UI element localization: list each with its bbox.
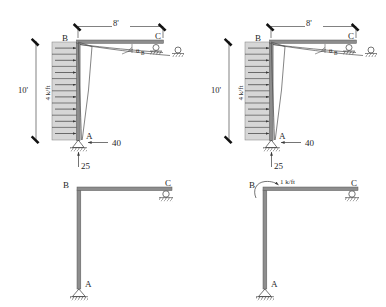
rotation-angle-subscript: B (141, 50, 145, 56)
vertical-reaction-label: 25 (274, 161, 284, 171)
span-dimension-label: 8' (113, 18, 119, 28)
joint-label-C-bottom-left: C (165, 178, 171, 188)
joint-label-C-bottom-right: C (351, 178, 357, 188)
height-dimension-label: 10' (18, 85, 29, 95)
height-dimension-label: 10' (211, 85, 222, 95)
joint-label-A-top-right: A (279, 131, 286, 141)
joint-label-B-top-right: B (255, 33, 261, 43)
joint-label-A-bottom-right: A (271, 279, 278, 289)
joint-label-A-bottom-left: A (85, 279, 92, 289)
figure-canvas: 8' 10' (0, 0, 386, 307)
distributed-load-label: 4 k/ft (237, 85, 245, 100)
joint-label-B-bottom-right: B (249, 180, 255, 190)
horizontal-reaction-label: 40 (112, 138, 122, 148)
span-dimension-label: 8' (306, 18, 312, 28)
joint-label-C-top-right: C (348, 31, 354, 41)
vertical-reaction-label: 25 (81, 161, 91, 171)
horizontal-reaction-label: 40 (305, 138, 315, 148)
joint-label-A-top-left: A (86, 131, 93, 141)
joint-label-B-top-left: B (62, 33, 68, 43)
applied-moment-label: 1 k/ft (280, 178, 295, 186)
joint-label-C-top-left: C (155, 31, 161, 41)
distributed-load-label: 4 k/ft (44, 85, 52, 100)
joint-label-B-bottom-left: B (63, 180, 69, 190)
rotation-angle-subscript: B (334, 50, 338, 56)
